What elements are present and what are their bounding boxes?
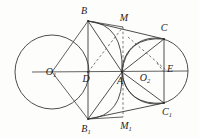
point-b1-dot — [87, 118, 89, 120]
label-point-e: E — [167, 64, 173, 74]
dashed-c1-e — [157, 63, 164, 72]
label-point-a: A — [117, 76, 123, 86]
label-o1-sub: 1 — [53, 71, 56, 78]
point-c-dot — [163, 38, 165, 40]
label-point-o1: O1 — [46, 67, 56, 77]
label-point-c: C — [161, 23, 168, 33]
label-b1-sub: 1 — [87, 128, 90, 135]
label-c1-sub: 1 — [169, 111, 172, 118]
label-point-b: B — [81, 6, 87, 16]
label-point-o2: O2 — [140, 73, 150, 83]
label-m1-sub: 1 — [129, 125, 132, 132]
point-c1-dot — [163, 102, 165, 104]
point-b-dot — [87, 20, 89, 22]
label-point-m1: M1 — [120, 121, 132, 131]
point-a-dot — [121, 71, 123, 73]
label-o2-sub: 2 — [147, 77, 150, 84]
label-c1-base: C — [162, 106, 169, 117]
segment-b-a — [88, 21, 122, 72]
label-point-m: M — [120, 13, 128, 23]
label-point-b1: B1 — [81, 124, 90, 134]
geometry-figure: B M C O1 D A O2 E C1 B1 M1 — [0, 0, 199, 138]
label-point-d: D — [82, 74, 89, 84]
label-point-c1: C1 — [162, 107, 172, 117]
segment-a-c — [122, 39, 164, 72]
segment-o1-b — [52, 21, 88, 72]
